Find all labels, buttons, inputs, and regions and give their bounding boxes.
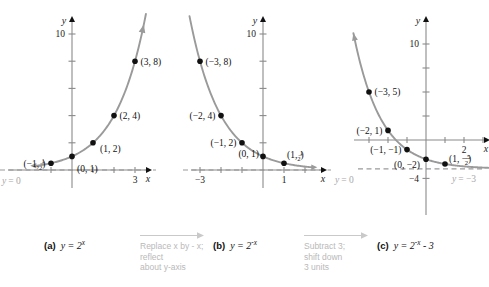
y-tick-label: −4	[409, 174, 419, 184]
svg-text:(−1, −1): (−1, −1)	[370, 145, 401, 156]
svg-text:(0, 1): (0, 1)	[77, 164, 98, 175]
chart-a: 310xy(−1, 1–2)(0, 1)(1, 2)(2, 4)(3, 8)y=…	[0, 0, 163, 232]
transition-note-1: Replace x by - x; reflect about y-axis	[140, 241, 218, 273]
data-point	[197, 58, 203, 64]
svg-text:(−1, 1–2): (−1, 1–2)	[23, 157, 45, 170]
svg-text:(−3, 8): (−3, 8)	[206, 57, 232, 68]
svg-text:(1, −5–2): (1, −5–2)	[449, 153, 471, 166]
panel-a-graph: 310xy(−1, 1–2)(0, 1)(1, 2)(2, 4)(3, 8)y=…	[0, 0, 163, 232]
svg-text:(0, 1): (0, 1)	[238, 149, 259, 160]
data-point	[404, 147, 410, 153]
svg-text:(−2, 4): (−2, 4)	[190, 111, 216, 122]
data-point	[132, 58, 138, 64]
curve	[34, 14, 146, 166]
data-point	[218, 113, 224, 119]
asymptote-label: y= 0	[1, 176, 21, 186]
data-point	[385, 128, 391, 134]
svg-text:(2, 4): (2, 4)	[120, 111, 141, 122]
data-point	[281, 160, 287, 166]
panel-c-graph: 210−4xy(−3, 5)(−2, 1)(−1, −1)(0, −2)(1, …	[326, 0, 489, 232]
caption-c-equation: y = 2-x - 3	[394, 240, 434, 251]
x-tick-label: 3	[133, 175, 138, 185]
data-point	[69, 154, 75, 160]
data-point	[90, 140, 96, 146]
svg-text:(−2, 1): (−2, 1)	[357, 126, 383, 137]
caption-a-lead: (a)	[44, 240, 56, 251]
transition-arrow-2	[304, 231, 368, 240]
data-point	[423, 156, 429, 162]
svg-text:(−3, 5): (−3, 5)	[375, 87, 401, 98]
svg-text:(3, 8): (3, 8)	[141, 57, 162, 68]
x-axis-label: x	[483, 143, 489, 154]
data-point	[48, 160, 54, 166]
asymptote-label: y= −3	[451, 174, 476, 184]
y-tick-label: 10	[56, 29, 66, 39]
caption-b: (b)y = 2-x	[213, 240, 257, 251]
data-point	[111, 113, 117, 119]
data-point	[239, 140, 245, 146]
transition-note-2: Subtract 3; shift down 3 units	[304, 241, 374, 273]
y-tick-label: 10	[247, 29, 257, 39]
chart-b: −3110xy(−3, 8)(−2, 4)(−1, 2)(0, 1)(1, 1–…	[163, 0, 326, 232]
data-point	[366, 89, 372, 95]
y-axis-label: y	[61, 15, 67, 26]
y-tick-label: 10	[410, 39, 420, 49]
y-axis-label: y	[252, 15, 258, 26]
x-axis-label: x	[145, 173, 151, 184]
panel-b-graph: −3110xy(−3, 8)(−2, 4)(−1, 2)(0, 1)(1, 1–…	[163, 0, 326, 232]
chart-c: 210−4xy(−3, 5)(−2, 1)(−1, −1)(0, −2)(1, …	[326, 0, 489, 232]
x-axis-label: x	[320, 173, 326, 184]
caption-c: (c)y = 2-x - 3	[377, 240, 434, 251]
y-axis-label: y	[415, 15, 421, 26]
data-point	[442, 161, 448, 167]
caption-b-equation: y = 2-x	[230, 240, 257, 251]
caption-a: (a)y = 2x	[44, 240, 85, 251]
svg-text:(1, 1–2): (1, 1–2)	[287, 149, 304, 162]
data-point	[260, 154, 266, 160]
svg-text:(0, −2): (0, −2)	[394, 160, 420, 171]
x-tick-label: 1	[282, 175, 287, 185]
svg-text:(−1, 2): (−1, 2)	[211, 138, 237, 149]
transition-arrow-1	[140, 231, 204, 240]
caption-a-equation: y = 2x	[61, 240, 85, 251]
figure-exponential-transformations: 310xy(−1, 1–2)(0, 1)(1, 2)(2, 4)(3, 8)y=…	[0, 0, 489, 287]
caption-c-lead: (c)	[377, 240, 389, 251]
x-tick-label: −3	[195, 175, 205, 185]
svg-text:(1, 2): (1, 2)	[100, 144, 121, 155]
